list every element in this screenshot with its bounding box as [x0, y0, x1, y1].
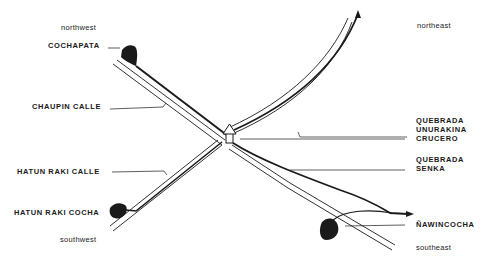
hatun-raki-channel — [126, 142, 222, 211]
map-diagram — [0, 0, 487, 260]
unurakina-arrow-icon — [355, 10, 361, 18]
cochapata-channel — [136, 66, 228, 136]
label-quebrada-senka-2: SENKA — [416, 164, 445, 173]
nawincocha-channel — [333, 211, 392, 220]
quebrada-unurakina-road — [228, 18, 352, 134]
label-crucero: CRUCERO — [416, 134, 458, 143]
label-hatun-raki-cocha: HATUN RAKI COCHA — [14, 208, 99, 217]
label-hatun-raki-calle: HATUN RAKI CALLE — [17, 167, 100, 176]
direction-southwest: southwest — [60, 235, 96, 244]
direction-northwest: northwest — [61, 23, 96, 32]
quebrada-senka-stream — [233, 143, 408, 214]
label-cochapata: COCHAPATA — [48, 41, 100, 50]
nawincocha-pond — [320, 219, 338, 240]
label-quebrada-unurakina-2: UNURAKINA — [416, 125, 467, 134]
label-quebrada-senka-1: QUEBRADA — [416, 155, 464, 164]
cochapata-pond — [121, 45, 137, 66]
direction-southeast: southeast — [416, 243, 451, 252]
direction-northeast: northeast — [417, 21, 451, 30]
label-quebrada-unurakina-1: QUEBRADA — [416, 116, 464, 125]
quebrada-unurakina-stream — [234, 14, 358, 130]
senka-arrow-icon — [406, 211, 414, 217]
hatun-raki-calle-road — [110, 140, 222, 231]
label-chaupin-calle: CHAUPIN CALLE — [32, 102, 101, 111]
hatun-raki-cocha-pond — [110, 203, 127, 218]
label-nawincocha: ÑAWINCOCHA — [416, 220, 475, 229]
